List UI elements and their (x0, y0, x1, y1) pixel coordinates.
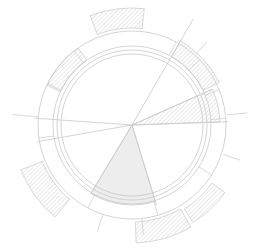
tick-east-lower (223, 155, 240, 161)
spoke-left-lower (37, 125, 132, 142)
outer-arc-southwest-hatched (21, 161, 70, 217)
spoke-left-upper (34, 118, 132, 125)
tick-east (227, 113, 247, 115)
ring-segment-group (47, 41, 219, 92)
divider-sw-1 (88, 195, 95, 208)
outer-arc-southeast-hatched (184, 183, 225, 222)
tick-northeast (196, 42, 207, 54)
divider-w-1 (39, 136, 54, 138)
polar-rose-diagram (0, 0, 262, 249)
outer-arc-group (21, 8, 225, 243)
outer-arc-north-hatched (90, 8, 144, 34)
divider-se-1 (199, 167, 212, 175)
tick-southwest (97, 214, 103, 231)
tick-west (12, 115, 38, 117)
ring-segment-ne-hatched (172, 41, 220, 90)
diagram-canvas (0, 0, 262, 249)
